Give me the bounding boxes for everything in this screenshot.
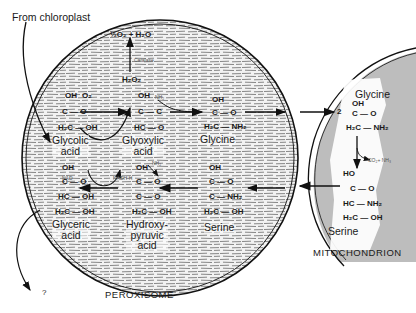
nh2-in-label: NH₂: [155, 95, 164, 100]
glycine-mito-label: Glycine: [355, 89, 390, 100]
glycine-peroxisome-label: Glycine: [200, 134, 235, 145]
o2-label: O₂: [82, 92, 92, 100]
glyoxylic-acid-label: Glyoxylicacid: [122, 135, 164, 156]
nh2-out-label: NH₂: [152, 161, 161, 166]
from-chloroplast-label: From chloroplast: [12, 12, 90, 23]
o2-h2o-label: ½O₂ + H₂O: [110, 31, 151, 39]
glycolic-acid-label: Glycolicacid: [52, 135, 89, 156]
nadh-label: NADH·H: [113, 176, 132, 181]
glyceric-acid-label: Glycericacid: [52, 219, 90, 240]
stoichiometry-label: 2: [337, 108, 341, 116]
serine-mito-label: Serine: [328, 226, 358, 237]
exit-arrow: [17, 210, 40, 290]
pathway-diagram: [0, 0, 416, 313]
peroxisome-caption: PEROXISOME: [105, 290, 174, 300]
hydroxypyruvic-acid-label: Hydroxy-pyruvicacid: [126, 219, 168, 251]
peroxisome-organelle: [22, 20, 298, 296]
unknown-fate-label: ?: [42, 289, 46, 297]
h2o2-label: H₂O₂: [122, 76, 141, 84]
mitochondrion-caption: MITOCHONDRION: [313, 248, 402, 258]
serine-peroxisome-label: Serine: [204, 222, 234, 233]
co2-nh3-label: CO₂+ NH₃: [368, 158, 391, 163]
catalase-label: Catalase: [134, 58, 154, 63]
